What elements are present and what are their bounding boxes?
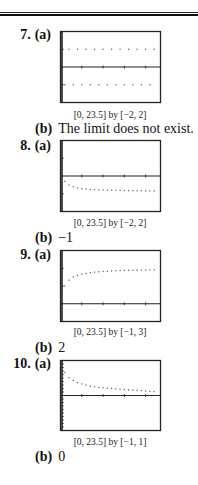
data-point xyxy=(64,372,65,373)
problem-number: 10. xyxy=(13,356,31,371)
graph-7a xyxy=(60,31,161,103)
data-point xyxy=(94,386,95,387)
data-point xyxy=(136,49,137,50)
data-point xyxy=(141,269,142,270)
part-a-label: (a) xyxy=(35,356,51,371)
part-b-label: (b) xyxy=(35,449,52,464)
data-point xyxy=(107,271,108,272)
data-point xyxy=(90,385,91,386)
graph-9a-window-caption: [0, 23.5] by [−1, 3] xyxy=(55,326,165,338)
data-point xyxy=(124,270,125,271)
data-point xyxy=(85,384,86,385)
data-point xyxy=(90,189,91,190)
data-point xyxy=(136,270,137,271)
part-a-label: (a) xyxy=(35,138,51,153)
data-point xyxy=(98,84,99,85)
data-point xyxy=(98,271,99,272)
data-point xyxy=(94,49,95,50)
data-point xyxy=(128,49,129,50)
graph-plot-area xyxy=(60,250,161,322)
graph-8a xyxy=(60,140,161,212)
data-point xyxy=(107,190,108,191)
problem-10-label: 10.(a) xyxy=(8,356,51,372)
part-b-label: (b) xyxy=(35,340,52,355)
data-point xyxy=(124,190,125,191)
data-point xyxy=(64,84,65,85)
data-point xyxy=(141,190,142,191)
data-point xyxy=(81,84,82,85)
graph-plot-area xyxy=(60,31,161,103)
data-point xyxy=(145,269,146,270)
graph-plot-area xyxy=(60,360,161,431)
data-point xyxy=(132,390,133,391)
graph-8a-window-caption: [0, 23.5] by [−2, 2] xyxy=(55,217,165,229)
part-a-label: (a) xyxy=(35,247,51,262)
data-point xyxy=(64,285,65,286)
data-point xyxy=(128,190,129,191)
data-point xyxy=(111,49,112,50)
graph-10a xyxy=(60,360,161,431)
data-point xyxy=(90,272,91,273)
problem-7-label: 7.(a) xyxy=(8,27,51,43)
problem-number: 8. xyxy=(20,138,31,153)
data-point xyxy=(85,49,86,50)
problem-8-label: 8.(a) xyxy=(8,138,51,154)
data-point xyxy=(154,49,155,50)
data-point xyxy=(73,380,74,381)
data-point xyxy=(119,190,120,191)
data-point xyxy=(68,280,69,281)
data-point xyxy=(145,390,146,391)
data-point xyxy=(145,190,146,191)
data-point xyxy=(119,270,120,271)
data-point xyxy=(149,84,150,85)
data-point xyxy=(85,273,86,274)
data-point xyxy=(132,190,133,191)
data-point xyxy=(77,275,78,276)
data-point xyxy=(85,189,86,190)
data-point xyxy=(132,84,133,85)
data-point xyxy=(141,390,142,391)
data-point xyxy=(149,391,150,392)
data-point xyxy=(68,377,69,378)
answer-text: The limit does not exist. xyxy=(58,121,194,136)
data-point xyxy=(98,189,99,190)
data-point xyxy=(128,389,129,390)
problem-9-answer-b: (b)2 xyxy=(35,340,65,356)
problem-number: 9. xyxy=(20,247,31,262)
data-point xyxy=(107,388,108,389)
data-point xyxy=(68,184,69,185)
answer-text: −1 xyxy=(58,230,73,245)
data-point xyxy=(132,270,133,271)
data-point xyxy=(90,84,91,85)
part-b-label: (b) xyxy=(35,121,52,136)
data-point xyxy=(111,388,112,389)
data-point xyxy=(94,189,95,190)
data-point xyxy=(94,272,95,273)
data-point xyxy=(124,389,125,390)
data-point xyxy=(107,84,108,85)
data-point xyxy=(149,269,150,270)
answer-text: 2 xyxy=(58,340,65,355)
graph-plot-area xyxy=(60,140,161,212)
part-a-label: (a) xyxy=(35,27,51,42)
part-b-label: (b) xyxy=(35,230,52,245)
data-point xyxy=(81,188,82,189)
data-point xyxy=(111,270,112,271)
answer-text: 0 xyxy=(58,449,65,464)
data-point xyxy=(128,270,129,271)
data-point xyxy=(115,388,116,389)
data-point xyxy=(73,186,74,187)
data-point xyxy=(64,181,65,182)
data-point xyxy=(68,49,69,50)
data-point xyxy=(81,274,82,275)
data-point xyxy=(77,187,78,188)
problem-number: 7. xyxy=(20,27,31,42)
header-rule-thin xyxy=(0,12,198,13)
graph-9a xyxy=(60,250,161,322)
graph-7a-window-caption: [0, 23.5] by [−2, 2] xyxy=(55,109,165,121)
data-point xyxy=(145,49,146,50)
data-point xyxy=(154,190,155,191)
data-point xyxy=(141,84,142,85)
data-point xyxy=(115,84,116,85)
problem-8-answer-b: (b)−1 xyxy=(35,230,73,246)
